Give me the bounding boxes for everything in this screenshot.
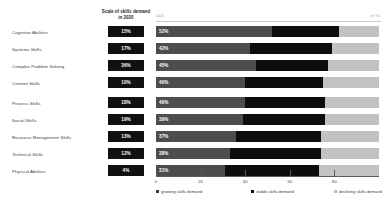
- x-axis-line: [156, 176, 379, 177]
- legend-label: growing skills demand: [161, 189, 202, 194]
- bar-segment-growing: 40%: [156, 97, 245, 108]
- demand-badge: 10%: [108, 77, 144, 88]
- stacked-bar: 31%: [156, 165, 379, 176]
- bar-segment-stable: [250, 43, 333, 54]
- bar-value-label: 31%: [156, 168, 169, 173]
- x-axis-tick-label: 80: [332, 179, 337, 184]
- bar-segment-declining: [321, 148, 379, 159]
- demand-badge: 17%: [108, 43, 144, 54]
- category-row: Content Skills: [12, 77, 98, 89]
- legend-swatch-grow-icon: [156, 190, 159, 193]
- bar-segment-declining: [321, 131, 379, 142]
- demand-badge-value: 15%: [121, 29, 131, 34]
- category-row: Cognitive Abilities: [12, 26, 98, 38]
- bar-segment-declining: [339, 26, 379, 37]
- demand-badge-value: 19%: [121, 117, 131, 122]
- bar-segment-declining: [323, 77, 379, 88]
- x-axis-tick: [245, 170, 246, 177]
- x-axis-tick: [156, 170, 157, 177]
- stacked-bar: 45%: [156, 60, 379, 71]
- category-label: Complex Problem Solving: [12, 64, 64, 69]
- category-label: Systems Skills: [12, 47, 41, 52]
- stacked-bar: 42%: [156, 43, 379, 54]
- legend-label: declining skills demand: [339, 189, 382, 194]
- demand-badge: 19%: [108, 114, 144, 125]
- demand-badge: 12%: [108, 148, 144, 159]
- bar-segment-growing: 40%: [156, 77, 245, 88]
- bar-segment-growing: 39%: [156, 114, 243, 125]
- bar-value-label: 38%: [156, 151, 169, 156]
- category-column: Cognitive AbilitiesSystems SkillsComplex…: [0, 0, 100, 208]
- badge-column: Scale of skills demand in 2020 15%17%36%…: [100, 0, 152, 208]
- demand-badge-value: 18%: [121, 100, 131, 105]
- bar-chart: 2020 (in %) growing skills demandstable …: [156, 0, 381, 208]
- bar-segment-declining: [325, 97, 379, 108]
- category-row: Complex Problem Solving: [12, 60, 98, 72]
- bar-segment-growing: 42%: [156, 43, 250, 54]
- demand-badge-value: 12%: [121, 151, 131, 156]
- category-label: Process Skills: [12, 101, 40, 106]
- bar-segment-declining: [332, 43, 379, 54]
- category-label: Technical Skills: [12, 152, 43, 157]
- legend-label: stable skills demand: [256, 189, 294, 194]
- bar-segment-declining: [319, 165, 379, 176]
- bar-value-label: 39%: [156, 117, 169, 122]
- axis-unit-label: (in %): [371, 14, 380, 18]
- demand-badge: 4%: [108, 165, 144, 176]
- legend-item-grow[interactable]: growing skills demand: [156, 189, 202, 194]
- bar-segment-growing: 38%: [156, 148, 230, 159]
- bar-segment-stable: [243, 114, 326, 125]
- x-axis-tick-label: 20: [198, 179, 203, 184]
- chart-legend: growing skills demandstable skills deman…: [156, 189, 379, 199]
- x-axis-tick: [334, 170, 335, 177]
- category-row: Systems Skills: [12, 43, 98, 55]
- x-axis-tick: [201, 170, 202, 177]
- bar-segment-growing: 37%: [156, 131, 236, 142]
- axis-start-label: 2020: [156, 14, 164, 18]
- stacked-bar: 38%: [156, 148, 379, 159]
- bar-segment-stable: [245, 77, 323, 88]
- stacked-bar: 40%: [156, 97, 379, 108]
- category-label: Physical Abilities: [12, 169, 46, 174]
- demand-badge: 15%: [108, 26, 144, 37]
- bar-segment-growing: 45%: [156, 60, 256, 71]
- stacked-bar: 37%: [156, 131, 379, 142]
- demand-badge-value: 4%: [123, 168, 130, 173]
- demand-badge-value: 10%: [121, 80, 131, 85]
- bar-segment-stable: [236, 131, 321, 142]
- legend-item-stable[interactable]: stable skills demand: [251, 189, 294, 194]
- bar-segment-growing: 31%: [156, 165, 225, 176]
- bar-value-label: 45%: [156, 63, 169, 68]
- category-row: Technical Skills: [12, 148, 98, 160]
- bar-value-label: 52%: [156, 29, 169, 34]
- demand-badge: 13%: [108, 131, 144, 142]
- stacked-bar: 40%: [156, 77, 379, 88]
- bar-segment-stable: [230, 148, 321, 159]
- bar-segment-declining: [325, 114, 379, 125]
- category-label: Resource Management Skills: [12, 135, 71, 140]
- legend-swatch-decline-icon: [334, 190, 337, 193]
- demand-badge: 18%: [108, 97, 144, 108]
- category-label: Cognitive Abilities: [12, 30, 48, 35]
- chart-top-rule: [156, 21, 381, 22]
- demand-badge-value: 36%: [121, 63, 131, 68]
- bar-segment-stable: [245, 97, 325, 108]
- x-axis-tick: [290, 170, 291, 177]
- bar-segment-stable: [272, 26, 339, 37]
- category-row: Process Skills: [12, 97, 98, 109]
- bar-value-label: 37%: [156, 134, 169, 139]
- stacked-bar: 52%: [156, 26, 379, 37]
- category-row: Social Skills: [12, 114, 98, 126]
- bar-segment-stable: [225, 165, 319, 176]
- category-label: Content Skills: [12, 81, 40, 86]
- bar-value-label: 42%: [156, 46, 169, 51]
- badge-column-header: Scale of skills demand in 2020: [100, 9, 152, 21]
- x-axis-tick-label: 40: [243, 179, 248, 184]
- x-axis-tick-label: 0: [155, 179, 157, 184]
- x-axis-tick-label: 60: [287, 179, 292, 184]
- legend-item-decline[interactable]: declining skills demand: [334, 189, 382, 194]
- bar-segment-stable: [256, 60, 327, 71]
- legend-swatch-stable-icon: [251, 190, 254, 193]
- demand-badge: 36%: [108, 60, 144, 71]
